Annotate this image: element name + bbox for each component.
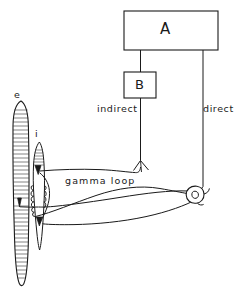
gamma-loop-diagram <box>0 0 240 298</box>
box-b-label: B <box>135 78 144 91</box>
extrafusal-fiber-label: e <box>14 90 20 100</box>
indirect-branch-left <box>134 161 141 171</box>
figure-canvas: A B indirect direct gamma loop e i <box>0 0 240 298</box>
gamma-loop-label: gamma loop <box>65 176 136 186</box>
efferent-fiber-upper <box>39 191 188 207</box>
efferent-fiber-lower <box>42 200 196 225</box>
motor-neuron-process-right <box>204 188 209 194</box>
box-a <box>124 11 218 50</box>
indirect-pathway-label: indirect <box>97 104 138 114</box>
direct-pathway-label: direct <box>203 104 234 114</box>
box-a-label: A <box>160 22 170 37</box>
indirect-branch-right <box>141 161 149 171</box>
intrafusal-fiber-label: i <box>35 129 38 139</box>
motor-neuron-process-bottom <box>198 203 204 205</box>
afferent-fiber-to-branchpoint <box>40 167 141 173</box>
intrafusal-fiber-outline <box>33 142 44 250</box>
motor-neuron-soma-outline <box>186 186 204 203</box>
